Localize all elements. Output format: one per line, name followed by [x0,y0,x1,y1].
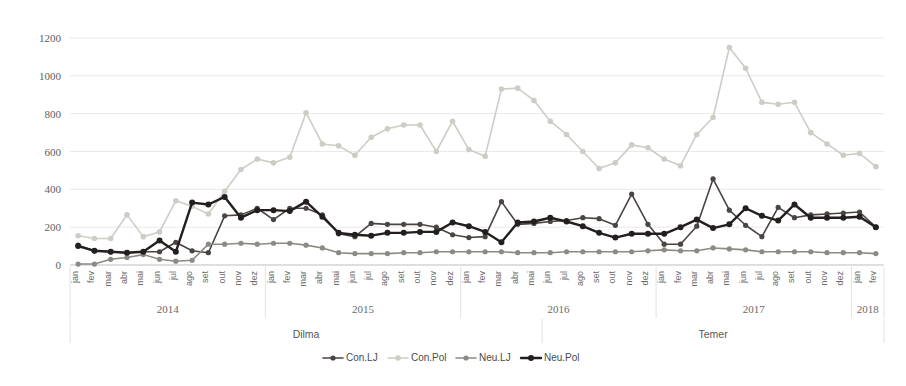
data-point [108,236,114,242]
x-tick-label: dez [835,271,845,286]
data-point [645,145,651,151]
data-point [515,219,521,225]
x-tick-label: jul [168,271,178,281]
data-point [580,149,586,155]
data-point [336,230,342,236]
period-label: Dilma [293,328,320,340]
data-point [157,237,163,243]
data-point [548,250,553,255]
data-point [483,249,488,254]
data-point [287,241,292,246]
legend-item-con-pol[interactable]: Con.Pol [388,352,447,363]
data-point [205,201,211,207]
data-point [743,65,749,71]
x-tick-label: fev [477,271,487,284]
data-point [124,250,130,256]
x-axis-labels: janfevmarabrmaijunjulagosetoutnovdezjanf… [70,271,878,287]
legend: Con.LJCon.PolNeu.LJNeu.Pol [323,352,580,363]
data-point [206,250,211,255]
data-point [694,217,700,223]
series-neu-lj [76,241,879,267]
x-tick-label: jan [461,271,471,284]
legend-item-neu-pol[interactable]: Neu.Pol [521,352,580,363]
data-point [694,132,700,138]
data-point [597,249,602,254]
data-point [466,249,471,254]
data-point [612,235,618,241]
legend-label: Con.Pol [411,352,447,363]
x-tick-label: abr [314,271,324,284]
data-point [222,242,227,247]
data-point [824,141,830,147]
x-tick-label: nov [428,271,438,286]
data-point [434,249,439,254]
data-point [710,245,715,250]
data-point [759,249,764,254]
data-point [645,248,650,253]
data-point [710,115,716,121]
data-point [336,250,341,255]
data-point [759,213,765,219]
x-tick-label: set [591,271,601,284]
data-point [678,163,684,169]
data-point [694,224,699,229]
data-point [417,229,423,235]
data-point [662,242,667,247]
data-point [92,236,98,242]
data-point [352,251,357,256]
y-tick-label: 1200 [39,32,62,44]
chart-container: 020040060080010001200janfevmarabrmaijunj… [0,0,906,386]
legend-label: Neu.LJ [479,352,511,363]
data-point [873,251,878,256]
data-point [661,231,667,237]
data-point [547,215,553,221]
data-point [206,211,212,217]
data-point [629,249,634,254]
x-tick-label: ago [184,271,194,286]
data-point [254,207,260,213]
data-point [369,251,374,256]
data-point [190,258,195,263]
data-point [124,212,130,218]
x-tick-label: set [396,271,406,284]
data-point [775,218,781,224]
data-point [499,86,505,92]
data-point [368,233,374,239]
x-tick-label: nov [233,271,243,286]
x-tick-label: mar [493,271,503,287]
data-point [271,241,276,246]
data-point [759,100,765,106]
data-point [173,259,178,264]
data-point [710,176,715,181]
data-point [108,249,114,255]
data-point [140,234,146,240]
legend-item-con-lj[interactable]: Con.LJ [323,352,378,363]
data-point [840,215,846,221]
data-point [564,218,570,224]
x-tick-label: abr [705,271,715,284]
data-point [808,215,814,221]
data-point [613,160,619,166]
data-point [645,222,650,227]
data-point [662,247,667,252]
data-point [417,222,422,227]
x-tick-label: mai [721,271,731,286]
data-point [743,223,748,228]
data-point [287,208,293,214]
data-point [547,118,553,124]
x-tick-label: ago [575,271,585,286]
legend-swatch-marker [463,355,468,360]
data-point [499,249,504,254]
x-tick-label: jul [754,271,764,281]
x-tick-label: jan [656,271,666,284]
legend-item-neu-lj[interactable]: Neu.LJ [456,352,511,363]
data-point [776,249,781,254]
y-tick-label: 0 [56,259,62,271]
data-point [515,85,521,91]
data-point [596,230,602,236]
legend-label: Neu.Pol [544,352,580,363]
year-label: 2018 [857,303,880,315]
data-point [678,242,683,247]
data-point [303,243,308,248]
data-point [352,152,358,158]
